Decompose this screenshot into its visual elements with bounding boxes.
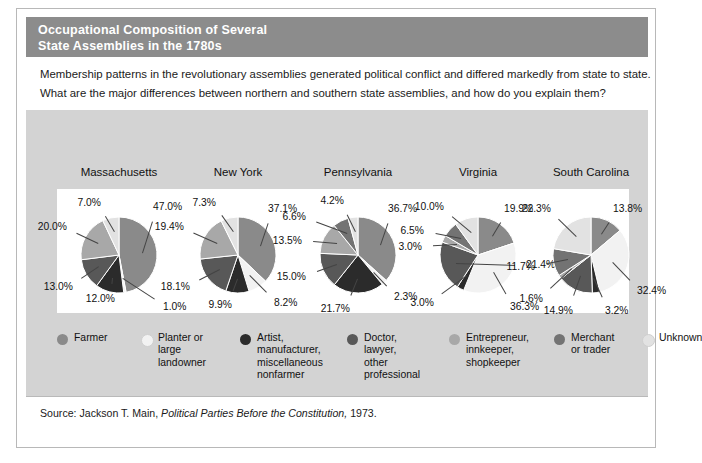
chart-panel: Massachusetts47.0%1.0%12.0%13.0%20.0%7.0…	[26, 110, 648, 396]
pie-slice-label: 13.8%	[613, 203, 642, 214]
pie-slice-label: 7.3%	[170, 197, 216, 208]
pie-slice-label: 3.2%	[605, 305, 628, 316]
pie-slice-label: 1.6%	[497, 293, 543, 304]
figure-title-line-2: State Assemblies in the 1780s	[38, 38, 648, 54]
pie-slice-label: 19.4%	[138, 221, 184, 232]
pie-slice-label: 9.9%	[186, 299, 232, 310]
source-citation: Source: Jackson T. Main, Political Parti…	[40, 407, 377, 419]
pie-slice-label: 13.5%	[256, 235, 302, 246]
pie-slice-label: 13.0%	[27, 281, 73, 292]
pie-slice-label: 20.0%	[21, 221, 67, 232]
pie-slice-label: 4.2%	[298, 195, 344, 206]
pie-slice-label: 10.0%	[398, 201, 444, 212]
pie-slice-label: 3.0%	[376, 241, 422, 252]
pie-title-south-carolina: South Carolina	[521, 166, 661, 178]
legend-swatch-icon	[347, 334, 358, 345]
pie-slice-label: 14.9%	[527, 305, 573, 316]
pie-slice	[554, 217, 591, 255]
pie-title-pennsylvania: Pennsylvania	[288, 166, 428, 178]
pie-slice-label: 6.5%	[378, 225, 424, 236]
pie-chart-virginia	[438, 215, 518, 295]
pie-slice-label: 8.2%	[274, 297, 297, 308]
figure-title-bar: Occupational Composition of Several Stat…	[26, 17, 648, 57]
pie-slice-label: 21.7%	[304, 303, 350, 314]
legend-swatch-icon	[449, 334, 460, 345]
legend-swatch-icon	[240, 334, 251, 345]
pie-slice-label: 32.4%	[637, 285, 666, 296]
source-prefix: Source: Jackson T. Main,	[40, 407, 158, 419]
pie-slice-label: 11.7%	[489, 261, 535, 272]
legend-swatch-icon	[642, 334, 655, 347]
legend-label: Farmer	[74, 332, 107, 344]
prompt-line-2: What are the major differences between n…	[40, 84, 634, 103]
pie-slice-label: 12.0%	[69, 293, 115, 304]
source-title: Political Parties Before the Constitutio…	[161, 407, 347, 419]
legend-label: Artist, manufacturer, miscellaneous nonf…	[257, 332, 323, 382]
pie-slice-label: 1.0%	[163, 301, 186, 312]
source-divider	[26, 396, 648, 397]
legend-label: Entrepreneur, innkeeper, shopkeeper	[466, 332, 529, 369]
pie-slice-label: 7.0%	[55, 197, 101, 208]
figure-container: Occupational Composition of Several Stat…	[16, 8, 656, 448]
pie-slice-label: 22.3%	[505, 203, 551, 214]
pie-title-new-york: New York	[168, 166, 308, 178]
source-block: Source: Jackson T. Main, Political Parti…	[26, 396, 648, 440]
pie-slice-label: 6.6%	[260, 211, 306, 222]
prompt-text-block: Membership patterns in the revolutionary…	[26, 57, 648, 110]
legend-label: Doctor, lawyer, other professional	[364, 332, 420, 382]
pie-slice-label: 18.1%	[144, 281, 190, 292]
legend-label: Unknown	[659, 332, 702, 344]
figure-title-line-1: Occupational Composition of Several	[38, 22, 648, 38]
chart-legend: FarmerPlanter or large landownerArtist, …	[57, 332, 637, 390]
source-year: 1973.	[350, 407, 377, 419]
pie-slice-label: 3.0%	[388, 297, 434, 308]
legend-swatch-icon	[141, 334, 154, 347]
legend-label: Planter or large landowner	[158, 332, 206, 369]
pie-slice-label: 15.0%	[260, 271, 306, 282]
legend-label: Merchant or trader	[571, 332, 614, 357]
prompt-line-1: Membership patterns in the revolutionary…	[40, 65, 634, 84]
legend-swatch-icon	[554, 334, 565, 345]
legend-swatch-icon	[57, 334, 68, 345]
pie-chart-south-carolina	[551, 215, 631, 295]
